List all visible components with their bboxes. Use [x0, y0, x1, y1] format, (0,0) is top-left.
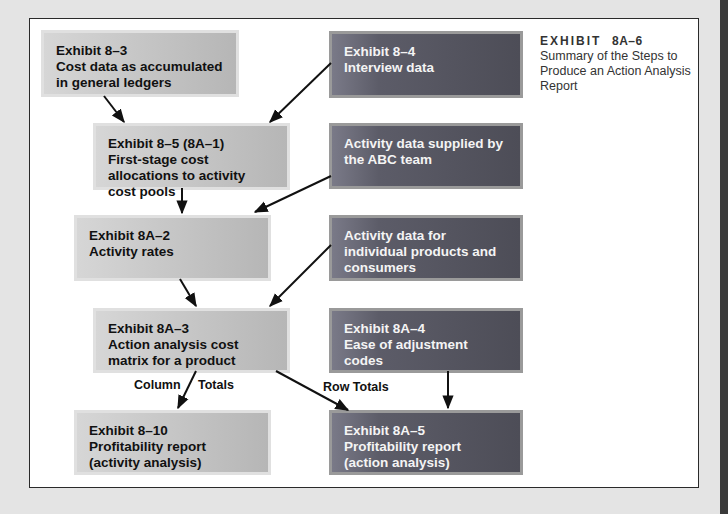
exhibit-number: EXHIBIT 8A–6 [540, 34, 700, 49]
node-exhibit-label: Exhibit 8A–3 [108, 321, 275, 337]
node-exhibit-label: Exhibit 8A–5 [344, 423, 508, 439]
exhibit-label: EXHIBIT [540, 34, 601, 48]
node-text: Cost data as accumulated in general ledg… [56, 59, 224, 91]
exhibit-caption: EXHIBIT 8A–6 Summary of the Steps to Pro… [540, 34, 700, 94]
node-text: Interview data [344, 60, 508, 76]
exhibit-title: Summary of the Steps to Produce an Actio… [540, 49, 700, 94]
edge-label-totals: Totals [198, 378, 234, 392]
node-exhibit-label: Exhibit 8–4 [344, 44, 508, 60]
node-individual: Activity data for individual products an… [332, 218, 520, 278]
node-interview: Exhibit 8–4 Interview data [332, 34, 520, 95]
exhibit-number-value: 8A–6 [612, 34, 643, 48]
node-activity-rates: Exhibit 8A–2 Activity rates [77, 218, 268, 278]
node-text: First-stage cost allocations to activity… [108, 152, 275, 200]
node-cost-matrix: Exhibit 8A–3 Action analysis cost matrix… [96, 311, 287, 370]
node-text: Profitability report (action analysis) [344, 439, 508, 471]
page-edge-strip [720, 0, 728, 514]
node-text: Action analysis cost matrix for a produc… [108, 337, 275, 369]
node-text: Profitability report (activity analysis) [89, 439, 256, 471]
node-text: Activity data supplied by the ABC team [344, 136, 508, 168]
node-profit-action: Exhibit 8A–5 Profitability report (actio… [332, 413, 520, 472]
node-exhibit-label: Exhibit 8A–4 [344, 321, 508, 337]
node-cost-data: Exhibit 8–3 Cost data as accumulated in … [44, 33, 236, 94]
node-first-stage: Exhibit 8–5 (8A–1) First-stage cost allo… [96, 126, 287, 187]
node-text: Activity data for individual products an… [344, 228, 508, 276]
edge-label-column: Column [134, 378, 181, 392]
node-text: Activity rates [89, 244, 256, 260]
node-exhibit-label: Exhibit 8–5 (8A–1) [108, 136, 275, 152]
node-profit-activity: Exhibit 8–10 Profitability report (activ… [77, 413, 268, 472]
node-exhibit-label: Exhibit 8–3 [56, 43, 224, 59]
node-text: Ease of adjustment codes [344, 337, 508, 369]
node-ease-codes: Exhibit 8A–4 Ease of adjustment codes [332, 311, 520, 370]
node-exhibit-label: Exhibit 8A–2 [89, 228, 256, 244]
node-abc-team: Activity data supplied by the ABC team [332, 126, 520, 186]
edge-label-row-totals: Row Totals [323, 380, 389, 394]
node-exhibit-label: Exhibit 8–10 [89, 423, 256, 439]
